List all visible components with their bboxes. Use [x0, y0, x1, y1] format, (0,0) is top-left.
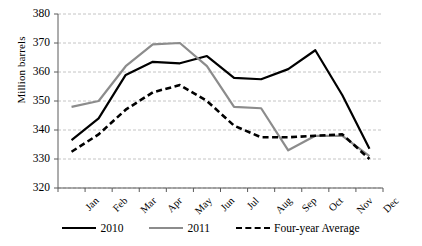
legend-item[interactable]: Four-year Average	[236, 222, 359, 234]
legend-swatch-icon	[149, 227, 183, 229]
chart-legend: 20102011Four-year Average	[0, 222, 422, 234]
legend-swatch-icon	[236, 227, 270, 229]
legend-label: 2011	[187, 222, 210, 234]
legend-item[interactable]: 2011	[149, 222, 210, 234]
line-chart: Million barrels 380370360350340330320 Ja…	[0, 0, 422, 246]
plot-area	[0, 0, 422, 246]
series-line-2011	[72, 43, 370, 156]
legend-item[interactable]: 2010	[62, 222, 123, 234]
legend-swatch-icon	[62, 227, 96, 229]
gridlines	[58, 14, 383, 188]
legend-label: Four-year Average	[274, 222, 359, 234]
series-line-four-year-average	[72, 85, 370, 159]
legend-label: 2010	[100, 222, 123, 234]
axis-tickmarks	[54, 14, 383, 192]
